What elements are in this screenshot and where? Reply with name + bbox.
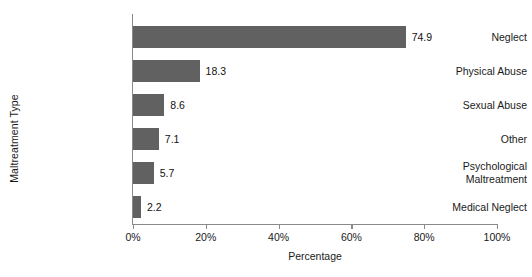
x-axis-title: Percentage — [132, 250, 498, 262]
bar-row: Neglect74.9 — [0, 20, 532, 54]
category-label: Psychological Maltreatment — [404, 156, 532, 190]
x-axis-line — [132, 224, 498, 225]
x-tick-label: 100% — [467, 231, 527, 243]
bar — [133, 60, 200, 82]
bar — [133, 162, 154, 184]
x-tick-mark — [351, 224, 352, 229]
category-label: Physical Abuse — [404, 54, 532, 88]
x-tick-mark — [497, 224, 498, 229]
x-tick-mark — [206, 224, 207, 229]
bar — [133, 128, 159, 150]
x-tick-label: 60% — [321, 231, 381, 243]
plot-area: Neglect74.9Physical Abuse18.3Sexual Abus… — [0, 0, 532, 277]
x-tick-label: 20% — [176, 231, 236, 243]
bar-value-label: 8.6 — [164, 94, 185, 116]
bar-row: Psychological Maltreatment5.7 — [0, 156, 532, 190]
bar-value-label: 7.1 — [159, 128, 180, 150]
x-tick-label: 0% — [103, 231, 163, 243]
category-label: Other — [404, 122, 532, 156]
bar — [133, 196, 141, 218]
x-tick-label: 80% — [394, 231, 454, 243]
bar-row: Sexual Abuse8.6 — [0, 88, 532, 122]
bar — [133, 94, 164, 116]
bar-value-label: 5.7 — [154, 162, 175, 184]
bar — [133, 26, 406, 48]
x-tick-mark — [279, 224, 280, 229]
bar-row: Medical Neglect2.2 — [0, 190, 532, 224]
bar-value-label: 2.2 — [141, 196, 162, 218]
x-tick-mark — [133, 224, 134, 229]
bar-chart: Maltreatment Type Neglect74.9Physical Ab… — [0, 0, 532, 277]
bar-row: Physical Abuse18.3 — [0, 54, 532, 88]
bar-row: Other7.1 — [0, 122, 532, 156]
category-label: Sexual Abuse — [404, 88, 532, 122]
x-tick-mark — [424, 224, 425, 229]
category-label: Medical Neglect — [404, 190, 532, 224]
bar-value-label: 74.9 — [406, 26, 432, 48]
bar-value-label: 18.3 — [200, 60, 226, 82]
x-tick-label: 40% — [249, 231, 309, 243]
